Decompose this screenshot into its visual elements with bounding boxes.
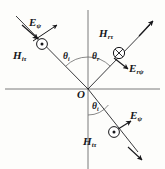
h-reflected-circle-cross-icon [113, 47, 124, 58]
h-reflected-symbol: H [99, 27, 108, 39]
h-transmitted-circle-dot-icon [109, 127, 120, 138]
h-incident-symbol: H [13, 49, 22, 61]
incident-ray [16, 16, 88, 89]
e-reflected-subscript: rψ [136, 68, 143, 75]
e-reflected-arrow [114, 58, 128, 69]
e-transmitted-label: Eψ [130, 110, 142, 121]
theta-r-subscript: r [97, 56, 99, 62]
e-incident-label: Eψ [29, 17, 41, 28]
h-transmitted-symbol: H [83, 135, 92, 147]
theta-i-label: θi [63, 52, 69, 62]
e-reflected-label: Erψ [129, 63, 143, 74]
physics-diagram-figure: Eψ Hiτ Hrτ Erψ Eψ Htτ θi θr θt O [0, 0, 165, 169]
h-reflected-subscript: rτ [108, 33, 113, 40]
e-transmitted-subscript: ψ [137, 115, 141, 122]
h-incident-circle-dot-icon [37, 39, 48, 50]
h-incident-label: Hiτ [13, 50, 26, 61]
h-transmitted-subscript: tτ [92, 141, 97, 148]
transmitted-ray-tip-arrow [128, 147, 142, 160]
h-transmitted-label: Htτ [83, 136, 96, 147]
e-incident-subscript: ψ [36, 22, 40, 29]
theta-t-label: θt [92, 102, 98, 112]
origin-label: O [77, 89, 85, 100]
theta-t-subscript: t [97, 106, 99, 112]
h-reflected-label: Hrτ [99, 28, 113, 39]
h-incident-subscript: iτ [22, 55, 27, 62]
theta-i-subscript: i [68, 56, 70, 62]
reflected-ray-tip-arrow [139, 21, 153, 36]
theta-r-label: θr [92, 52, 99, 62]
